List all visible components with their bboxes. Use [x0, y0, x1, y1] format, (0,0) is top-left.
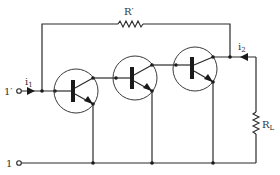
terminal-node-top — [17, 89, 22, 94]
circuit-diagram: R′ 1′ i1 — [0, 0, 280, 175]
junction-dot — [40, 89, 44, 93]
load-resistor-label: RL — [262, 119, 275, 132]
terminal-node-bottom — [17, 161, 22, 166]
emitter-arrow-icon — [204, 74, 213, 82]
load-resistor-rl — [253, 112, 259, 134]
input-terminal: 1′ i1 — [4, 76, 57, 97]
input-current-label: i1 — [25, 76, 33, 89]
transistor-t2 — [113, 56, 157, 163]
transistor-t1 — [54, 69, 98, 163]
output-current-label: i2 — [238, 41, 246, 54]
transistor-t3 — [173, 47, 217, 163]
feedback-resistor-r-prime — [118, 21, 143, 27]
terminal-label-top: 1′ — [4, 86, 13, 97]
current-arrow-i2-icon — [240, 53, 248, 61]
junction-dot — [228, 55, 232, 59]
feedback-resistor-label: R′ — [124, 6, 135, 17]
ground-rail: 1 — [6, 158, 256, 169]
output-load: i2 RL — [213, 41, 275, 163]
emitter-arrow-icon — [84, 96, 93, 104]
emitter-arrow-icon — [143, 83, 152, 91]
terminal-label-bottom: 1 — [6, 158, 12, 169]
